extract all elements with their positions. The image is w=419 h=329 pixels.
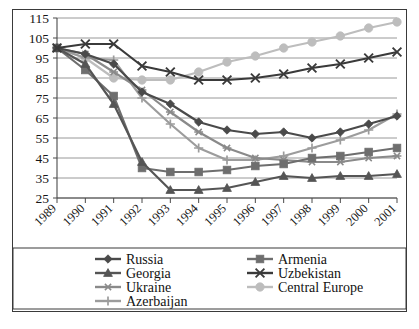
chart-figure: 2535455565758595105115 19891990199119921… — [0, 0, 419, 329]
figure-border — [12, 9, 407, 312]
